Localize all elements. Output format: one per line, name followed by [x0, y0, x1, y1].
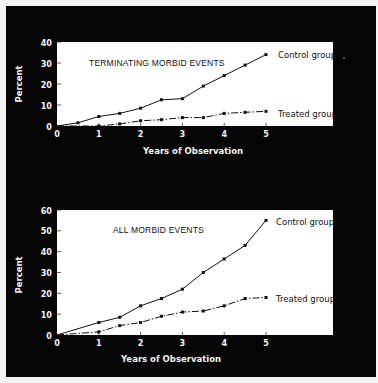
data-point — [160, 315, 163, 318]
data-point — [223, 304, 226, 307]
y-tick-label: 10 — [41, 101, 53, 111]
data-point — [244, 244, 247, 247]
x-tick-label: 5 — [263, 338, 269, 348]
x-tick-label: 0 — [54, 129, 60, 139]
y-tick-label: 40 — [41, 247, 53, 257]
x-tick-label: 2 — [138, 129, 144, 139]
x-tick-label: 3 — [180, 129, 186, 139]
legend-control-bottom: Control group — [276, 217, 334, 227]
data-point — [139, 321, 142, 324]
data-point — [76, 121, 79, 124]
legend-treated-bottom: Treated group — [275, 294, 335, 304]
data-point — [265, 110, 268, 113]
data-point — [244, 111, 247, 114]
data-point — [202, 271, 205, 274]
x-tick-label: 1 — [96, 129, 102, 139]
data-point — [97, 125, 100, 128]
data-point — [97, 321, 100, 324]
x-tick-label: 1 — [96, 338, 102, 348]
data-point — [160, 98, 163, 101]
data-point — [244, 297, 247, 300]
x-tick-label: 2 — [138, 338, 144, 348]
data-point — [181, 116, 184, 119]
data-point — [223, 74, 226, 77]
chart-top: 010203040 012345 TERMINATING MORBID EVEN… — [14, 38, 345, 157]
data-point — [118, 324, 121, 327]
x-tick-label: 5 — [263, 129, 269, 139]
figure: 010203040 012345 TERMINATING MORBID EVEN… — [0, 0, 378, 383]
x-tick-label: 3 — [180, 338, 186, 348]
x-tick-label: 4 — [221, 338, 227, 348]
y-axis-label-bottom: Percent — [14, 256, 24, 293]
data-point — [97, 330, 100, 333]
data-point — [118, 316, 121, 319]
chart-title-top: TERMINATING MORBID EVENTS — [89, 58, 225, 68]
data-point — [139, 119, 142, 122]
data-point — [97, 115, 100, 118]
data-point — [160, 118, 163, 121]
data-point — [181, 97, 184, 100]
y-tick-label: 30 — [41, 59, 53, 69]
chart-title-bottom: ALL MORBID EVENTS — [113, 225, 204, 235]
speck — [343, 57, 345, 59]
data-point — [265, 219, 268, 222]
y-axis-label-top: Percent — [14, 65, 24, 102]
data-point — [139, 107, 142, 110]
data-point — [265, 53, 268, 56]
y-tick-label: 20 — [41, 289, 53, 299]
legend-treated-top: Treated group — [277, 109, 337, 119]
y-tick-label: 0 — [46, 122, 52, 132]
chart-bottom: 0102030405060 012345 ALL MORBID EVENTS P… — [14, 206, 335, 365]
x-tick-label: 4 — [221, 129, 227, 139]
data-point — [160, 297, 163, 300]
x-axis-label-top: Years of Observation — [142, 146, 243, 156]
y-tick-label: 40 — [41, 38, 53, 48]
data-point — [139, 304, 142, 307]
data-point — [202, 116, 205, 119]
data-point — [118, 122, 121, 125]
data-point — [244, 64, 247, 67]
y-tick-label: 10 — [41, 310, 53, 320]
y-tick-label: 60 — [41, 206, 53, 216]
y-tick-label: 20 — [41, 80, 53, 90]
y-tick-label: 50 — [41, 226, 53, 236]
data-point — [118, 112, 121, 115]
data-point — [223, 112, 226, 115]
y-tick-label: 0 — [46, 331, 52, 341]
data-point — [181, 288, 184, 291]
legend-control-top: Control group — [278, 50, 336, 60]
x-tick-label: 0 — [54, 338, 60, 348]
data-point — [265, 296, 268, 299]
data-point — [223, 257, 226, 260]
data-point — [181, 311, 184, 314]
y-tick-label: 30 — [41, 268, 53, 278]
x-axis-label-bottom: Years of Observation — [120, 354, 221, 364]
data-point — [202, 85, 205, 88]
data-point — [202, 310, 205, 313]
